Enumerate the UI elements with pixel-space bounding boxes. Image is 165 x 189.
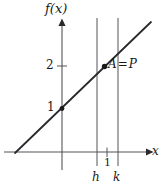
y-axis-arrowhead — [58, 19, 65, 27]
point-A-marker — [102, 64, 107, 69]
point-A-equals-P-label: A=P — [108, 58, 137, 70]
point-y-intercept — [60, 106, 65, 111]
y-axis-label: f(x) — [45, 2, 67, 15]
function-line — [15, 22, 151, 153]
y-tick-label-1: 1 — [47, 101, 55, 113]
vertical-line-k-label: k — [113, 171, 120, 183]
x-axis — [4, 148, 154, 155]
point-A-label: A — [108, 57, 117, 71]
y-axis — [58, 19, 65, 171]
point-P-label: P — [129, 57, 137, 71]
x-axis-label: x — [152, 145, 159, 157]
equals-sign: = — [117, 57, 129, 71]
x-tick-label-1: 1 — [104, 157, 111, 168]
y-tick-label-2: 2 — [46, 59, 54, 71]
function-graph-figure: f(x) x 2 1 1 h k A=P — [0, 0, 165, 189]
graph-canvas — [0, 0, 165, 189]
vertical-line-h-label: h — [92, 171, 100, 183]
